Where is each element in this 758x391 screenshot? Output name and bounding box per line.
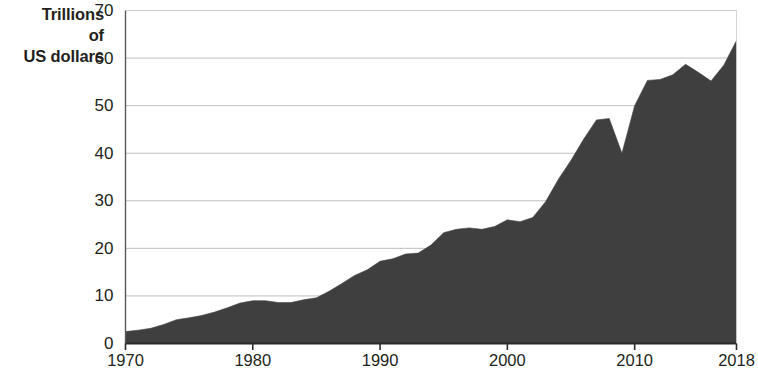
x-axis-ticks <box>126 344 737 351</box>
chart-container: Trillions of US dollars 70 60 50 40 30 2… <box>0 0 758 391</box>
area-series-path <box>126 40 737 343</box>
plot-area <box>0 0 758 391</box>
